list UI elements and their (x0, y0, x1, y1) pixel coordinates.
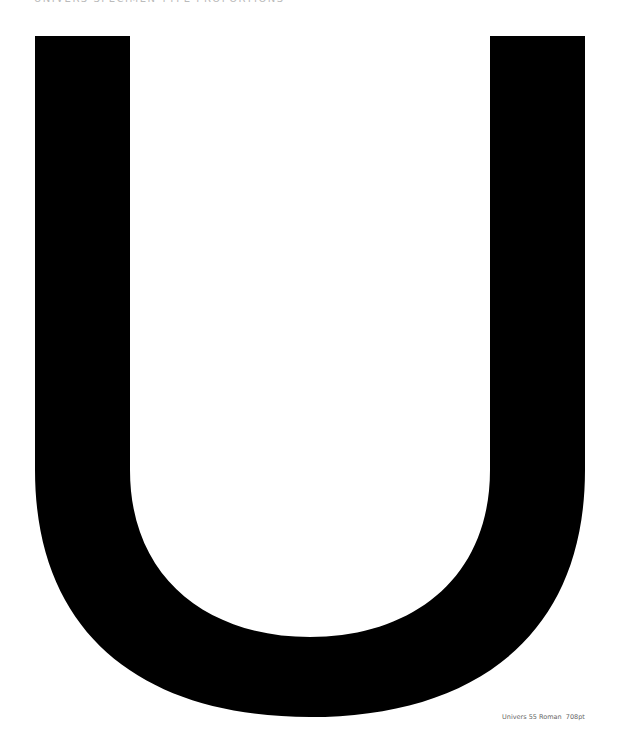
specimen-caption: Univers 55 Roman 708pt (502, 713, 585, 721)
letter-u-glyph (0, 0, 617, 755)
